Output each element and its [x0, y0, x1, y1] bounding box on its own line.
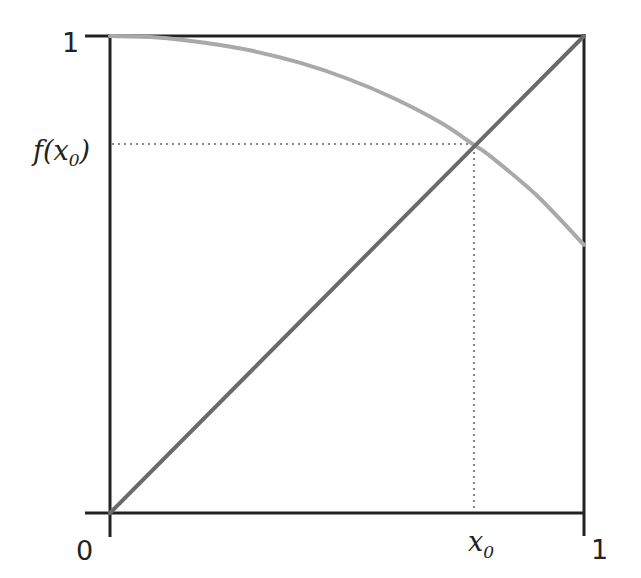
x-tick-label-x0: x0	[468, 526, 494, 562]
fixed-point-chart: 1 f(x0) 0 x0 1	[0, 0, 641, 578]
identity-diagonal	[110, 36, 584, 513]
function-curve	[110, 36, 584, 245]
fx0-subscript: 0	[69, 150, 80, 170]
x0-subscript: 0	[483, 542, 494, 562]
x-tick-label-0: 0	[76, 535, 93, 566]
fx0-base: f(x	[31, 135, 69, 166]
x0-base: x	[468, 526, 483, 557]
y-tick-label-fx0: f(x0)	[31, 135, 90, 170]
fx0-close: )	[79, 135, 91, 166]
y-tick-label-1: 1	[62, 27, 79, 58]
x-tick-label-1: 1	[591, 534, 608, 565]
